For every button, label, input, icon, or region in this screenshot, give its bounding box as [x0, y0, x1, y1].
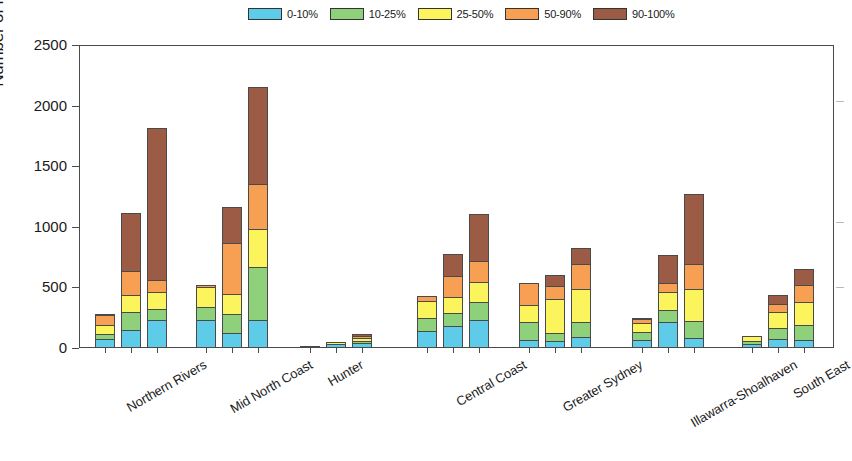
- bar-segment: [222, 333, 242, 348]
- legend-item: 10-25%: [330, 8, 406, 20]
- bar-segment: [571, 337, 591, 348]
- x-axis-tick: [479, 348, 480, 353]
- bar-segment: [545, 286, 565, 301]
- bar-segment: [121, 312, 141, 331]
- bar-stack: [684, 45, 704, 348]
- bar-segment: [658, 310, 678, 323]
- scan-artifact: [836, 101, 844, 102]
- y-tick-label: 1000: [34, 218, 67, 235]
- bar-stack: [632, 45, 652, 348]
- bar-segment: [469, 261, 489, 283]
- bar-stack: [742, 45, 762, 348]
- bar-segment: [443, 326, 463, 348]
- bar-stack: [222, 45, 242, 348]
- bar-segment: [794, 269, 814, 286]
- bar-segment: [147, 128, 167, 281]
- bar-segment: [196, 287, 216, 308]
- bar-segment: [222, 243, 242, 295]
- y-tick-label: 2500: [34, 36, 67, 53]
- x-axis-tick: [131, 348, 132, 353]
- bar-segment: [684, 289, 704, 322]
- bar-segment: [794, 325, 814, 341]
- legend-swatch: [505, 8, 539, 20]
- y-axis-tick: 0: [0, 348, 79, 349]
- bar-segment: [443, 276, 463, 298]
- bar-segment: [443, 313, 463, 328]
- y-tick-label: 1500: [34, 157, 67, 174]
- y-tick-mark: [72, 287, 79, 288]
- bar-segment: [147, 292, 167, 310]
- bar-segment: [121, 213, 141, 272]
- x-axis-tick: [668, 348, 669, 353]
- bar-segment: [196, 320, 216, 348]
- bar-segment: [571, 248, 591, 265]
- x-axis-group-label: Hunter: [325, 357, 366, 389]
- bar-segment: [248, 229, 268, 268]
- bar-stack: [196, 45, 216, 348]
- bar-stack: [519, 45, 539, 348]
- y-tick-label: 2000: [34, 97, 67, 114]
- legend-label: 90-100%: [632, 8, 675, 20]
- bar-segment: [196, 307, 216, 321]
- bar-stack: [95, 45, 115, 348]
- x-axis-group-label: Illawarra-Shoalhaven: [688, 357, 800, 430]
- bar-segment: [519, 305, 539, 323]
- x-axis-tick: [310, 348, 311, 353]
- bar-segment: [658, 292, 678, 311]
- bar-segment: [632, 340, 652, 348]
- bar-segment: [443, 254, 463, 277]
- bar-segment: [571, 289, 591, 322]
- y-tick-label: 0: [59, 339, 67, 356]
- legend-label: 25-50%: [457, 8, 494, 20]
- bar-stack: [147, 45, 167, 348]
- bar-segment: [794, 285, 814, 303]
- legend-item: 0-10%: [248, 8, 318, 20]
- scan-artifact: [836, 287, 844, 288]
- x-axis-group-label: Greater Sydney: [560, 357, 645, 415]
- bar-segment: [768, 312, 788, 329]
- bar-segment: [121, 330, 141, 348]
- bar-stack: [794, 45, 814, 348]
- x-axis-tick: [778, 348, 779, 353]
- legend-swatch: [330, 8, 364, 20]
- y-axis-tick: 1000: [0, 227, 79, 228]
- bar-segment: [768, 339, 788, 348]
- chart-legend: 0-10%10-25%25-50%50-90%90-100%: [248, 4, 675, 24]
- legend-swatch: [593, 8, 627, 20]
- bar-segment: [519, 340, 539, 348]
- legend-label: 10-25%: [369, 8, 406, 20]
- bar-segment: [545, 341, 565, 348]
- y-axis-tick: 2500: [0, 45, 79, 46]
- bar-stack: [768, 45, 788, 348]
- y-axis-tick: 2000: [0, 106, 79, 107]
- bar-segment: [571, 264, 591, 291]
- bar-segment: [248, 320, 268, 348]
- bar-segment: [469, 302, 489, 320]
- bar-stack: [571, 45, 591, 348]
- legend-swatch: [418, 8, 452, 20]
- bar-segment: [519, 283, 539, 306]
- bar-segment: [222, 294, 242, 315]
- bar-segment: [469, 214, 489, 262]
- y-axis-title: Number of Properties: [0, 0, 8, 118]
- x-axis-group-label: Central Coast: [453, 357, 528, 409]
- x-axis-tick: [157, 348, 158, 353]
- y-axis-tick: 500: [0, 287, 79, 288]
- legend-item: 90-100%: [593, 8, 675, 20]
- legend-label: 0-10%: [287, 8, 318, 20]
- y-tick-mark: [72, 106, 79, 107]
- bar-segment: [147, 280, 167, 294]
- bar-segment: [443, 297, 463, 314]
- x-axis-tick: [206, 348, 207, 353]
- bar-segment: [684, 338, 704, 348]
- x-axis-tick: [232, 348, 233, 353]
- x-axis-tick: [258, 348, 259, 353]
- bar-stack: [658, 45, 678, 348]
- bar-segment: [248, 87, 268, 185]
- bar-segment: [121, 295, 141, 313]
- bar-segment: [545, 299, 565, 334]
- scan-artifact: [836, 222, 844, 223]
- x-axis-tick: [804, 348, 805, 353]
- bar-segment: [147, 320, 167, 348]
- y-tick-mark: [72, 166, 79, 167]
